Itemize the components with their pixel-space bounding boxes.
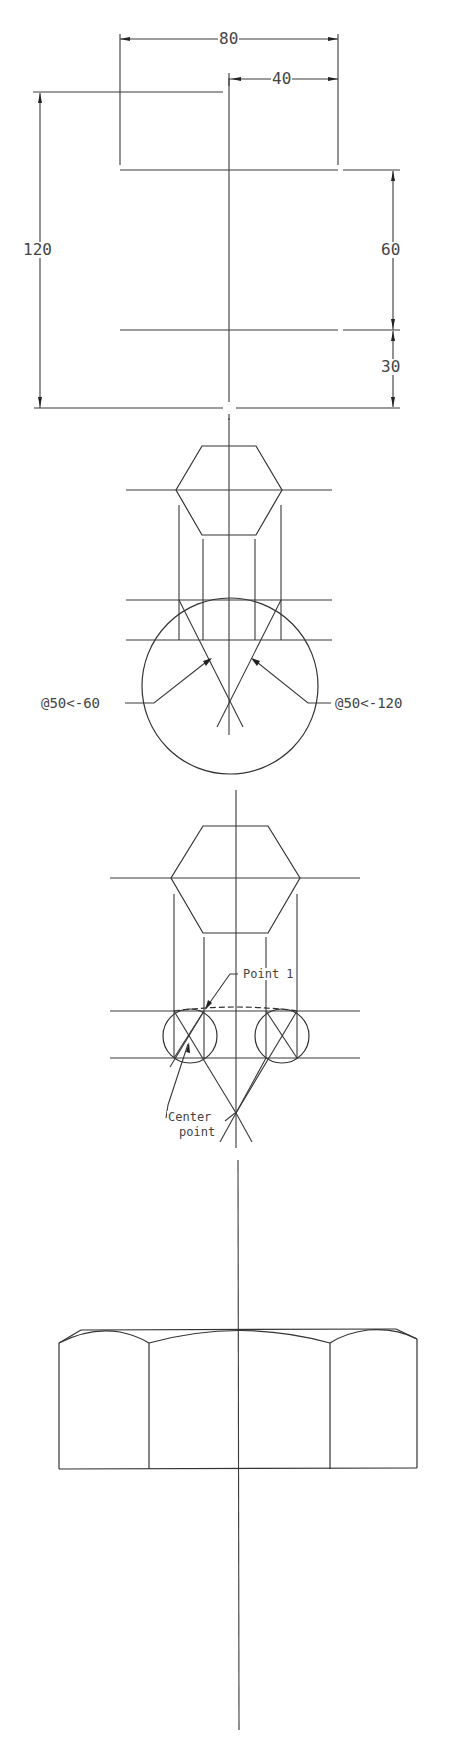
- polar-coordinate-label-right: @50<-120: [334, 696, 403, 710]
- center-point-label-line1: Center: [167, 1111, 212, 1123]
- construction-circle: [142, 598, 318, 774]
- dimension-label-120: 120: [22, 242, 53, 258]
- dimension-label-40: 40: [271, 71, 292, 87]
- arrowhead-icon: [328, 77, 338, 81]
- arrowhead-icon: [328, 37, 338, 41]
- dimension-label-30: 30: [380, 359, 401, 375]
- arrowhead-icon: [38, 397, 42, 407]
- dimension-frame: [33, 34, 400, 420]
- center-line-lower: [238, 1160, 239, 1730]
- center-point-label-line2: point: [178, 1126, 216, 1138]
- arrowhead-icon: [391, 171, 395, 181]
- point-1-label: Point 1: [242, 968, 295, 980]
- polar-coordinate-label-left: @50<-60: [40, 696, 101, 710]
- hexagon-construction-view-1: [125, 418, 332, 774]
- arrowhead-icon: [391, 397, 395, 407]
- nut-base-line: [59, 1468, 417, 1469]
- arrowhead-icon: [231, 77, 241, 81]
- arrowhead-icon: [251, 658, 260, 666]
- arrowhead-icon: [391, 331, 395, 341]
- cad-drawing: 80 40 120 60 30 @50<-60 @50<-120 Point 1…: [0, 0, 449, 1748]
- arc-circle-left: [163, 1009, 217, 1063]
- dimension-label-80: 80: [218, 31, 239, 47]
- dimension-label-60: 60: [380, 242, 401, 258]
- arrowhead-icon: [120, 37, 130, 41]
- nut-chamfer-line: [81, 1329, 396, 1330]
- arrowhead-icon: [391, 319, 395, 329]
- arrowhead-icon: [38, 93, 42, 103]
- hexagon-construction-view-2: [110, 790, 360, 1730]
